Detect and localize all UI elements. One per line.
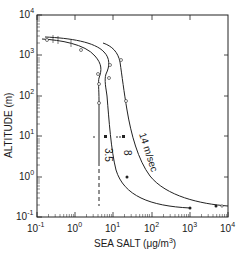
y-axis-title: ALTITUDE (m) <box>3 93 14 158</box>
y-ticks <box>37 15 228 217</box>
curves <box>42 37 228 208</box>
curve-3-5 <box>42 39 101 162</box>
svg-text:10-1: 10-1 <box>27 221 44 234</box>
curve-label-3-5: 3.5 <box>103 148 114 162</box>
y-tick-labels: 10-1 100 101 102 103 104 <box>16 7 34 222</box>
svg-text:104: 104 <box>19 7 34 20</box>
svg-text:103: 103 <box>182 221 197 234</box>
curve-label-14: 14 m/sec <box>137 131 160 173</box>
chart: 3.5 8 14 m/sec 10-1 100 101 102 103 104 … <box>0 0 240 255</box>
x-ticks <box>37 15 228 217</box>
data-markers <box>46 35 224 210</box>
svg-text:104: 104 <box>220 221 235 234</box>
curve-label-8: 8 <box>122 150 133 156</box>
curve-8 <box>45 37 190 208</box>
svg-text:102: 102 <box>144 221 159 234</box>
svg-text:101: 101 <box>105 221 120 234</box>
svg-text:101: 101 <box>19 128 34 141</box>
svg-text:10-1: 10-1 <box>16 209 33 222</box>
plot-frame <box>37 15 228 217</box>
svg-text:102: 102 <box>19 88 34 101</box>
svg-text:103: 103 <box>19 47 34 60</box>
x-axis-title: SEA SALT (μg/m3) <box>94 237 176 249</box>
svg-text:100: 100 <box>19 169 34 182</box>
x-tick-labels: 10-1 100 101 102 103 104 <box>27 221 235 234</box>
svg-text:100: 100 <box>67 221 82 234</box>
